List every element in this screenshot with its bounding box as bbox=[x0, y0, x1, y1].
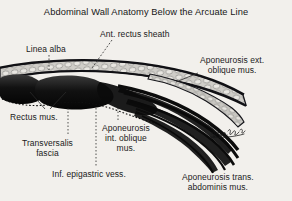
label-aponeurosis-ext-oblique: Aponeurosis ext. oblique mus. bbox=[200, 55, 264, 75]
label-rectus-mus: Rectus mus. bbox=[10, 112, 58, 122]
label-inf-epigastric-vess: Inf. epigastric vess. bbox=[52, 169, 126, 179]
label-aponeurosis-trans-abdominis: Aponeurosis trans. abdominis mus. bbox=[182, 172, 254, 192]
label-transversalis-fascia: Transversalis fascia bbox=[22, 138, 73, 158]
label-ant-rectus-sheath: Ant. rectus sheath bbox=[100, 29, 169, 39]
label-linea-alba: Linea alba bbox=[26, 44, 66, 54]
label-aponeurosis-int-oblique: Aponeurosis int. oblique mus. bbox=[102, 123, 150, 153]
page-title: Abdominal Wall Anatomy Below the Arcuate… bbox=[0, 7, 292, 17]
